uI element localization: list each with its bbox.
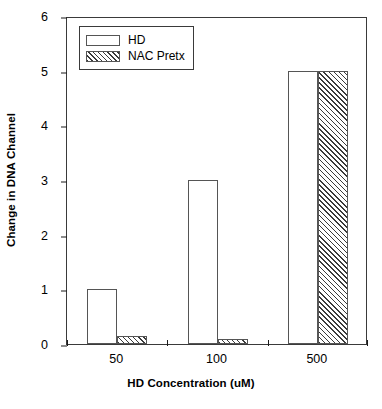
x-tick-label: 50: [109, 352, 123, 366]
y-axis-title-text: Change in DNA Channel: [5, 113, 17, 247]
x-tick-mark: [268, 340, 269, 346]
chart-legend: HD NAC Pretx: [79, 26, 194, 70]
y-tick-label: 4: [41, 120, 48, 133]
y-tick-label: 2: [41, 229, 48, 242]
x-axis-title: HD Concentration (uM): [0, 377, 382, 389]
y-tick-mark: [61, 72, 67, 73]
legend-item-nac-pretx: NAC Pretx: [86, 48, 185, 64]
bar-nac-pretx-500: [318, 71, 348, 344]
y-tick-label: 3: [41, 175, 48, 188]
x-tick-mark: [367, 340, 368, 346]
legend-item-hd: HD: [86, 32, 185, 48]
legend-label-hd: HD: [128, 34, 145, 46]
y-tick-mark: [61, 18, 67, 19]
y-axis-tick-labels: 0123456: [22, 0, 56, 409]
bar-nac-pretx-50: [117, 336, 147, 344]
bar-hd-50: [87, 289, 117, 344]
y-tick-mark: [61, 127, 67, 128]
y-tick-mark: [61, 182, 67, 183]
y-tick-mark: [61, 236, 67, 237]
x-tick-mark: [67, 340, 68, 346]
y-tick-label: 1: [41, 284, 48, 297]
y-tick-label: 6: [41, 11, 48, 24]
legend-swatch-hd-icon: [86, 35, 120, 46]
bar-hd-100: [188, 180, 218, 344]
x-tick-label: 500: [306, 352, 327, 366]
bar-chart-figure: Change in DNA Channel 0123456 HD NAC Pre…: [0, 0, 382, 409]
y-tick-mark: [61, 291, 67, 292]
legend-swatch-nac-pretx-icon: [86, 51, 120, 62]
y-tick-label: 0: [41, 339, 48, 352]
plot-area: HD NAC Pretx: [66, 17, 367, 345]
x-axis-tick-labels: 50100500: [66, 352, 367, 372]
y-axis-title: Change in DNA Channel: [0, 0, 22, 360]
legend-label-nac-pretx: NAC Pretx: [128, 50, 185, 62]
y-tick-label: 5: [41, 65, 48, 78]
x-tick-label: 100: [206, 352, 227, 366]
x-tick-mark: [167, 340, 168, 346]
bar-nac-pretx-100: [218, 339, 248, 344]
bar-hd-500: [288, 71, 318, 344]
